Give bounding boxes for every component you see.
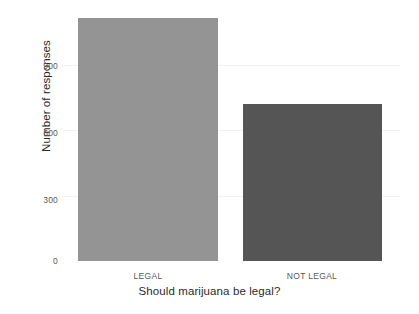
x-tick-label-legal: LEGAL bbox=[134, 271, 163, 281]
x-axis-title: Should marijuana be legal? bbox=[0, 285, 419, 297]
y-tick-label-0: 0 bbox=[12, 256, 58, 266]
x-tick-label-not-legal: NOT LEGAL bbox=[287, 271, 337, 281]
y-tick-label-600: 600 bbox=[12, 128, 58, 138]
bar-chart: Number of responses 900 600 300 0 LEGAL … bbox=[0, 0, 419, 314]
y-tick-label-900: 900 bbox=[12, 61, 58, 71]
y-axis-tick-labels: 900 600 300 0 bbox=[0, 8, 58, 261]
bar-legal bbox=[78, 18, 218, 261]
y-tick-label-300: 300 bbox=[12, 195, 58, 205]
bar-not-legal bbox=[243, 104, 382, 261]
plot-area bbox=[62, 8, 400, 261]
